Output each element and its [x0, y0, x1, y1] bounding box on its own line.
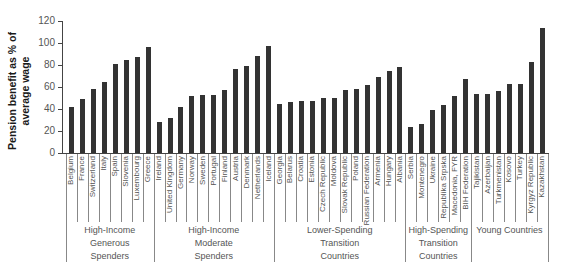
category-label-text: Ireland: [154, 156, 164, 180]
y-tick-label: 20: [31, 126, 55, 136]
category-label-text: Italy: [99, 156, 109, 171]
category-label: Azerbaijan: [482, 156, 493, 220]
y-tick-label: 0: [31, 148, 55, 158]
bar-germany: [178, 107, 183, 153]
category-label: Greece: [143, 156, 154, 220]
bar-belarus: [288, 102, 293, 153]
group-divider: [548, 154, 549, 262]
category-label: Kazakhstan: [537, 156, 548, 220]
category-label-text: Moldova: [329, 156, 339, 186]
bar-denmark: [244, 66, 249, 153]
category-label-text: Sweden: [198, 156, 208, 185]
category-label: United Kingdom: [165, 156, 176, 220]
bar-poland: [354, 89, 359, 153]
group-label: High-IncomeModerateSpenders: [154, 224, 274, 263]
category-label-text: Croatia: [296, 156, 306, 182]
bar-czech-republic: [321, 98, 326, 153]
category-label-text: Norway: [187, 156, 197, 183]
bar-italy: [102, 82, 107, 154]
category-label-text: Kyrgyz Republic: [526, 156, 536, 214]
category-label: Serbia: [405, 156, 416, 220]
bar-azerbaijan: [485, 94, 490, 153]
category-label-text: Belgium: [66, 156, 76, 185]
category-label-text: Republika Srpska: [439, 156, 449, 219]
category-label: Ukraine: [427, 156, 438, 220]
category-label: Germany: [176, 156, 187, 220]
bar-austria: [233, 69, 238, 153]
category-label-text: Belarus: [285, 156, 295, 183]
bar-republika-srpska: [441, 105, 446, 153]
bar-estonia: [310, 101, 315, 153]
category-label-text: Montenegro: [417, 156, 427, 199]
category-label-text: Ukraine: [428, 156, 438, 184]
category-label-text: Germany: [176, 156, 186, 189]
category-label: France: [77, 156, 88, 220]
group-divider: [154, 154, 155, 262]
bar-iceland: [266, 46, 271, 153]
category-label: Czech Republic: [318, 156, 329, 220]
group-divider: [471, 154, 472, 262]
group-label: High-IncomeGenerousSpenders: [66, 224, 154, 263]
bar-netherlands: [255, 56, 260, 153]
category-label-text: Switzerland: [88, 156, 98, 197]
y-tick-label: 120: [31, 16, 55, 26]
category-label: Denmark: [241, 156, 252, 220]
category-label-text: Hungary: [384, 156, 394, 186]
bar-slovak-republic: [343, 90, 348, 153]
category-label: Kyrgyz Republic: [526, 156, 537, 220]
category-label-text: Turkey: [515, 156, 525, 180]
category-label: Croatia: [296, 156, 307, 220]
category-label-text: Tajikistan: [472, 156, 482, 189]
category-label: Finland: [219, 156, 230, 220]
category-label: Montenegro: [416, 156, 427, 220]
category-label: Hungary: [384, 156, 395, 220]
category-label-text: Slovenia: [121, 156, 131, 187]
x-axis-line: [62, 153, 549, 154]
bar-spain: [113, 64, 118, 153]
bar-luxembourg: [135, 57, 140, 153]
category-label: Iceland: [263, 156, 274, 220]
category-label: Belgium: [66, 156, 77, 220]
category-label: Sweden: [197, 156, 208, 220]
category-label: Slovenia: [121, 156, 132, 220]
category-label-text: Kosovo: [504, 156, 514, 183]
bar-sweden: [200, 95, 205, 153]
bar-ireland: [157, 122, 162, 153]
bar-kyrgyz-republic: [529, 62, 534, 153]
bar-macedonia-fyr: [452, 96, 457, 153]
category-label: Moldova: [329, 156, 340, 220]
category-label: Ireland: [154, 156, 165, 220]
category-label-text: Georgia: [275, 156, 285, 184]
category-label-text: Kazakhstan: [537, 156, 547, 198]
bar-finland: [222, 90, 227, 153]
category-label: Luxembourg: [132, 156, 143, 220]
category-label: Norway: [186, 156, 197, 220]
category-label-text: Estonia: [307, 156, 317, 183]
bar-serbia: [408, 127, 413, 153]
category-label: Austria: [230, 156, 241, 220]
category-label: Estonia: [307, 156, 318, 220]
bar-ukraine: [430, 110, 435, 153]
category-label-text: Portugal: [209, 156, 219, 186]
bar-hungary: [387, 71, 392, 154]
category-label-text: Finland: [220, 156, 230, 182]
category-label: Italy: [99, 156, 110, 220]
y-tick-label: 80: [31, 60, 55, 70]
bar-belgium: [69, 107, 74, 153]
category-label-text: Austria: [231, 156, 241, 181]
category-label-text: Russian Federation: [362, 156, 372, 225]
category-label: Macedonia, FYR: [449, 156, 460, 220]
category-label-text: Serbia: [406, 156, 416, 179]
group-label: High-SpendingTransitionCountries: [405, 224, 471, 263]
bar-turkmenistan: [496, 91, 501, 153]
category-label: Kosovo: [504, 156, 515, 220]
category-label: Switzerland: [88, 156, 99, 220]
bar-chart: Pension benefit as % of average wage 020…: [0, 0, 563, 274]
category-label: Georgia: [274, 156, 285, 220]
bar-bih-federation: [463, 79, 468, 153]
category-label-text: Slovak Republic: [340, 156, 350, 213]
bar-montenegro: [419, 124, 424, 153]
bar-croatia: [299, 101, 304, 153]
category-label-text: BIH Federation: [461, 156, 471, 210]
category-label: Tajikistan: [471, 156, 482, 220]
